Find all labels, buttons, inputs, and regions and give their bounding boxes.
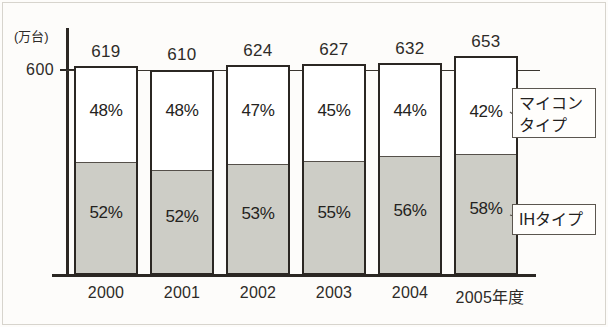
bar-2002-segment-micro: 47% — [228, 67, 288, 164]
x-label-2000: 2000 — [70, 284, 142, 302]
bar-2001-ih-label: 52% — [152, 207, 212, 227]
bar-2005-segment-micro: 42% — [456, 58, 516, 154]
bar-2000-ih-label: 52% — [76, 203, 136, 223]
bar-2005-micro-label: 42% — [456, 102, 516, 122]
y-axis-tick-600: 600 — [26, 61, 54, 79]
bar-2001-total-label: 610 — [150, 45, 214, 65]
bar-2003-segment-ih: 55% — [304, 161, 364, 273]
bar-2001-micro-label: 48% — [152, 101, 212, 121]
bar-2000[interactable]: 48% 52% — [74, 66, 138, 275]
bar-2002[interactable]: 47% 53% — [226, 65, 290, 275]
x-label-2004: 2004 — [374, 284, 446, 302]
bar-2003-micro-label: 45% — [304, 101, 364, 121]
bar-2002-total-label: 624 — [226, 41, 290, 61]
bar-2003-segment-micro: 45% — [304, 66, 364, 161]
bar-2001[interactable]: 48% 52% — [150, 70, 214, 275]
bar-2002-ih-label: 53% — [228, 204, 288, 224]
bar-2000-segment-ih: 52% — [76, 162, 136, 273]
bar-2001-segment-ih: 52% — [152, 170, 212, 273]
bar-2001-segment-micro: 48% — [152, 72, 212, 170]
bar-2004-segment-ih: 56% — [380, 156, 440, 273]
bar-2005-total-label: 653 — [454, 32, 518, 52]
bar-2000-micro-label: 48% — [76, 101, 136, 121]
chart-figure: (万台) 600 48% 52% 619 2000 48% 52% 610 20… — [0, 0, 608, 327]
bar-2005-ih-label: 58% — [456, 199, 516, 219]
bar-2003-total-label: 627 — [302, 40, 366, 60]
bar-2000-segment-micro: 48% — [76, 68, 136, 162]
bar-2004-micro-label: 44% — [380, 101, 440, 121]
x-label-2005: 2005年度 — [444, 284, 536, 308]
gridline-600-seg-6 — [518, 70, 540, 71]
bar-2004-ih-label: 56% — [380, 201, 440, 221]
y-axis-line — [66, 28, 69, 276]
bar-2002-segment-ih: 53% — [228, 164, 288, 273]
bar-2004[interactable]: 44% 56% — [378, 63, 442, 275]
bar-2004-total-label: 632 — [378, 39, 442, 59]
legend-item-micro[interactable]: マイコン タイプ — [512, 88, 596, 138]
bar-2003-ih-label: 55% — [304, 203, 364, 223]
bar-2000-total-label: 619 — [74, 42, 138, 62]
x-label-2001: 2001 — [146, 284, 218, 302]
bar-2002-micro-label: 47% — [228, 101, 288, 121]
bar-2005-segment-ih: 58% — [456, 154, 516, 273]
x-label-2002: 2002 — [222, 284, 294, 302]
legend-item-ih[interactable]: IHタイプ — [512, 204, 596, 235]
bar-2005[interactable]: 42% 58% — [454, 56, 518, 275]
bar-2003[interactable]: 45% 55% — [302, 64, 366, 275]
x-label-2003: 2003 — [298, 284, 370, 302]
bar-2004-segment-micro: 44% — [380, 65, 440, 156]
y-axis-unit-label: (万台) — [14, 26, 49, 45]
